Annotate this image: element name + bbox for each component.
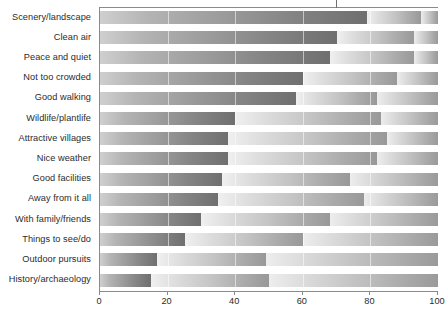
bar-segment [185, 233, 303, 246]
bar-segment [377, 92, 438, 105]
axis-tick [99, 291, 100, 295]
bar-segment [100, 31, 337, 44]
bar-segment [100, 51, 330, 64]
axis-tick-label: 100 [429, 296, 444, 306]
bar-segment [100, 253, 157, 266]
axis-tick [234, 291, 235, 295]
axis-tick-label: 80 [364, 296, 374, 306]
bar-row [100, 193, 438, 206]
bar-segment [303, 72, 398, 85]
bar-row [100, 173, 438, 186]
bar-segment [222, 173, 350, 186]
bar-segment [330, 213, 438, 226]
top-notch-marker [336, 0, 337, 8]
axis-tick-label: 0 [96, 296, 101, 306]
bar-segment [367, 11, 421, 24]
category-label: Good facilities [33, 168, 91, 188]
grid-line [168, 8, 169, 292]
category-label: Peace and quiet [24, 47, 91, 67]
value-axis: 020406080100 [99, 291, 437, 318]
bar-segment [381, 112, 438, 125]
bar-segment [100, 92, 296, 105]
bar-segment [337, 31, 415, 44]
bar-segment [100, 274, 151, 287]
bar-row [100, 274, 438, 287]
bar-segment [100, 11, 367, 24]
bar-segment [201, 213, 329, 226]
bar-segment [414, 31, 438, 44]
category-label: History/archaeology [9, 269, 91, 289]
bar-row [100, 152, 438, 165]
bar-segment [228, 132, 387, 145]
axis-tick [302, 291, 303, 295]
category-label: Things to see/do [22, 229, 91, 249]
bar-row [100, 11, 438, 24]
bar-segment [100, 152, 228, 165]
category-label: Good walking [35, 87, 91, 107]
bar-segment [387, 132, 438, 145]
stacked-bar-chart: Scenery/landscapeClean airPeace and quie… [0, 0, 448, 318]
category-label: Clean air [54, 27, 91, 47]
category-label: Wildlife/plantlife [26, 108, 91, 128]
axis-line [99, 291, 437, 292]
category-label: Not too crowded [23, 67, 91, 87]
category-label: Outdoor pursuits [22, 249, 91, 269]
axis-tick-label: 20 [161, 296, 171, 306]
category-axis: Scenery/landscapeClean airPeace and quie… [0, 7, 95, 291]
bar-row [100, 31, 438, 44]
bar-segment [100, 173, 222, 186]
axis-tick [369, 291, 370, 295]
bar-segment [100, 72, 303, 85]
category-label: Scenery/landscape [12, 7, 91, 27]
bar-segment [100, 193, 218, 206]
bar-row [100, 51, 438, 64]
bar-segment [100, 233, 185, 246]
category-label: With family/friends [15, 209, 91, 229]
axis-tick [167, 291, 168, 295]
grid-line [303, 8, 304, 292]
bar-segment [218, 193, 363, 206]
bar-row [100, 92, 438, 105]
bar-row [100, 112, 438, 125]
bar-segment [235, 112, 380, 125]
bar-segment [100, 132, 228, 145]
bar-segment [296, 92, 377, 105]
category-label: Away from it all [28, 188, 91, 208]
axis-tick-label: 40 [229, 296, 239, 306]
grid-line [235, 8, 236, 292]
bar-segment [100, 213, 201, 226]
plot-area [99, 7, 438, 292]
bar-row [100, 72, 438, 85]
bar-segment [421, 11, 438, 24]
bar-segment [364, 193, 438, 206]
bar-segment [397, 72, 438, 85]
bars-container [100, 8, 438, 292]
bar-segment [350, 173, 438, 186]
bar-segment [377, 152, 438, 165]
bar-segment [414, 51, 438, 64]
bar-segment [157, 253, 265, 266]
category-label: Attractive villages [19, 128, 91, 148]
bar-segment [269, 274, 438, 287]
category-label: Nice weather [37, 148, 91, 168]
grid-line [370, 8, 371, 292]
bar-segment [330, 51, 415, 64]
axis-tick [437, 291, 438, 295]
bar-row [100, 253, 438, 266]
bar-row [100, 213, 438, 226]
bar-row [100, 233, 438, 246]
bar-row [100, 132, 438, 145]
bar-segment [266, 253, 438, 266]
axis-tick-label: 60 [297, 296, 307, 306]
